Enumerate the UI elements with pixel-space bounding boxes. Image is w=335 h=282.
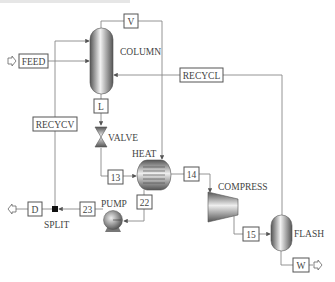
- stream-tag-22[interactable]: 22: [137, 195, 152, 209]
- clipped-header-text: [0, 0, 130, 3]
- split-label: SPLIT: [44, 220, 70, 230]
- flash-unit[interactable]: [271, 215, 292, 251]
- compressor-unit[interactable]: [208, 192, 238, 222]
- stream-tag-23[interactable]: 23: [80, 202, 95, 216]
- process-flow-diagram: COLUMN VALVE HEAT COMPRESS FLASH PUMP SP…: [0, 0, 335, 282]
- pump-label: PUMP: [101, 199, 127, 209]
- pump-unit[interactable]: [104, 211, 123, 233]
- stream-line-recycl[interactable]: [114, 75, 282, 215]
- valve-icon: [95, 127, 107, 147]
- stream-tag-l[interactable]: L: [94, 99, 108, 113]
- svg-text:RECYCV: RECYCV: [36, 120, 75, 130]
- svg-text:RECYCL: RECYCL: [183, 71, 221, 81]
- feed-inlet-arrow-icon: [8, 56, 16, 66]
- compressor-icon: [208, 192, 238, 222]
- heat-exchanger-unit[interactable]: [137, 160, 171, 190]
- svg-text:15: 15: [246, 230, 256, 240]
- stream-tag-recycv[interactable]: RECYCV: [33, 117, 77, 131]
- svg-text:14: 14: [187, 170, 197, 180]
- svg-text:22: 22: [140, 198, 150, 208]
- heat-label: HEAT: [132, 149, 156, 159]
- compress-label: COMPRESS: [218, 182, 268, 192]
- w-outlet-arrow-icon: [314, 260, 322, 270]
- valve-label: VALVE: [108, 133, 138, 143]
- d-outlet-arrow-icon: [8, 204, 16, 214]
- column-unit[interactable]: [90, 28, 113, 94]
- stream-tag-13[interactable]: 13: [108, 170, 123, 184]
- column-label: COLUMN: [120, 47, 161, 57]
- stream-tag-15[interactable]: 15: [243, 227, 259, 241]
- splitter-icon[interactable]: [52, 206, 58, 212]
- column-vessel-icon: [90, 28, 113, 94]
- svg-text:W: W: [297, 261, 306, 271]
- svg-text:23: 23: [83, 205, 93, 215]
- stream-tag-recycl[interactable]: RECYCL: [180, 68, 223, 82]
- stream-tag-v[interactable]: V: [124, 14, 138, 28]
- valve-unit[interactable]: [95, 127, 107, 147]
- stream-tag-w[interactable]: W: [293, 258, 309, 272]
- svg-text:D: D: [32, 205, 39, 215]
- stream-tag-feed[interactable]: FEED: [19, 54, 48, 68]
- flash-drum-icon: [271, 215, 292, 251]
- svg-text:13: 13: [111, 173, 121, 183]
- flash-label: FLASH: [294, 229, 324, 239]
- svg-text:FEED: FEED: [22, 57, 46, 67]
- svg-text:V: V: [128, 17, 135, 27]
- stream-tag-14[interactable]: 14: [184, 167, 199, 181]
- svg-text:L: L: [98, 102, 104, 112]
- stream-tag-d[interactable]: D: [28, 202, 42, 216]
